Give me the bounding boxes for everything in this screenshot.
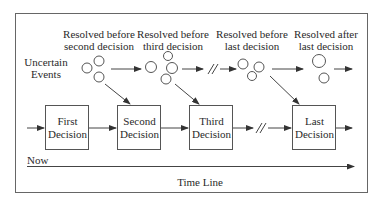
third-decision-label: Third Decision (190, 115, 233, 141)
header-resolved-after-last: Resolved after last decision (293, 28, 359, 52)
event-cluster-2 (146, 52, 178, 85)
arrow-cluster1-to-second-decision (105, 84, 130, 104)
event-cluster-3 (238, 59, 264, 81)
now-label: Now (27, 154, 48, 166)
timeline-label: Time Line (170, 176, 230, 188)
arrow-cluster2-to-third-decision (175, 84, 199, 104)
header-resolved-before-second: Resolved before second decision (62, 28, 136, 52)
first-decision-label: First Decision (46, 115, 89, 141)
uncertain-events-label: Uncertain Events (18, 56, 74, 80)
event-cluster-4 (313, 55, 330, 84)
header-resolved-before-third: Resolved before third decision (136, 28, 210, 52)
event-cluster-1 (82, 56, 104, 82)
header-resolved-before-last: Resolved before last decision (215, 28, 289, 52)
second-decision-label: Second Decision (118, 115, 161, 141)
arrow-cluster3-to-last-decision (270, 76, 299, 104)
last-decision-label: Last Decision (293, 115, 336, 141)
